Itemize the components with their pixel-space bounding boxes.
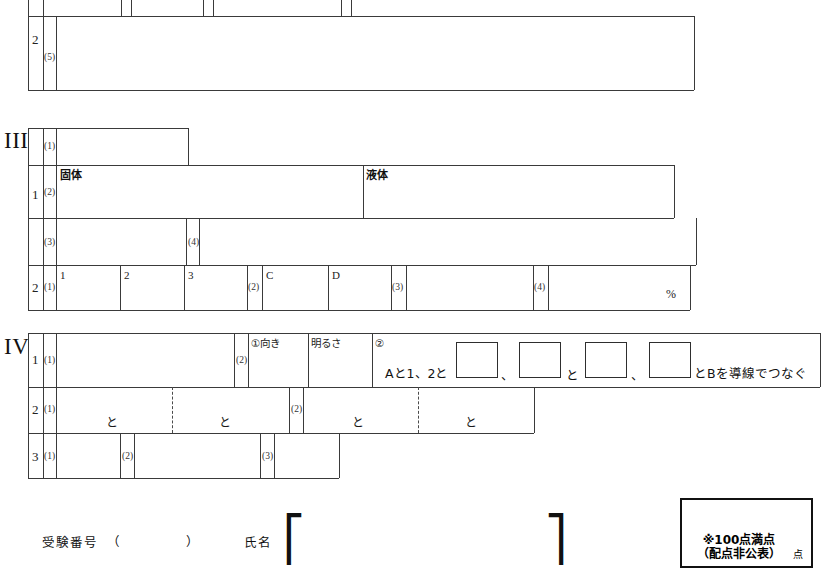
label-sub2-marker: ② (375, 338, 384, 349)
section-4-2-1-number: (1) (44, 405, 55, 415)
answer-field-3-2-1-col1[interactable] (57, 279, 119, 309)
exam-number-label: 受験番号 (42, 537, 98, 550)
section-3-roman: III (4, 129, 28, 152)
section-4-3-3-number: (3) (262, 452, 273, 462)
answer-field-4-3-2[interactable] (135, 434, 259, 477)
name-bracket-close: ⎤ (545, 518, 567, 562)
grid-vline (351, 0, 352, 16)
grid-vline (260, 433, 261, 478)
answer-field-4-3-3[interactable] (275, 434, 338, 477)
grid-hline (28, 478, 339, 479)
section-3-group-2-number: 2 (32, 281, 39, 294)
section-3-outer-rule (28, 128, 29, 310)
section-4-roman: IV (4, 335, 29, 358)
row-1-2-right-rule (674, 165, 675, 218)
answer-field-4-1-1[interactable] (57, 334, 233, 386)
grid-vline (690, 265, 691, 310)
separator-mid: と (566, 370, 579, 383)
label-brightness: 明るさ (311, 338, 341, 349)
section-4-row1-right-rule (820, 333, 821, 387)
grid-vline (121, 0, 122, 16)
blank-box-4[interactable] (649, 342, 691, 378)
section-3-2-4-number: (4) (534, 283, 545, 293)
answer-field-4-2-1-left[interactable] (57, 388, 171, 432)
section-4-1-1-number: (1) (44, 356, 55, 366)
answer-field-3-1-2-liquid[interactable] (365, 180, 672, 216)
exam-number-paren-open: （ (107, 536, 121, 549)
blank-box-3[interactable] (585, 342, 627, 378)
section-4-3-2-number: (2) (122, 452, 133, 462)
section-3-1-4-number: (4) (188, 238, 199, 248)
answer-field-4-2-2-left[interactable] (304, 388, 417, 432)
answer-field-3-2-4[interactable] (549, 266, 664, 309)
answer-field-3-2-2-colC[interactable] (263, 279, 327, 309)
section-3-1-1-number: (1) (44, 142, 55, 152)
grid-vline (289, 387, 290, 433)
section-4-group-2-number: 2 (32, 403, 39, 416)
grid-hline (28, 310, 690, 311)
exam-number-paren-close: ） (186, 536, 200, 549)
answer-field-4-3-1[interactable] (57, 434, 119, 477)
answer-field-3-2-2-colD[interactable] (329, 279, 390, 309)
grid-vline (234, 333, 235, 387)
section-4-1-2-number: (2) (236, 356, 247, 366)
answer-cell-right-rule (694, 16, 695, 90)
section-4-group-3-number: 3 (32, 450, 39, 463)
blank-box-2[interactable] (519, 342, 561, 378)
section-3-2-1-number: (1) (44, 283, 55, 293)
section-4-row2-right-rule (534, 387, 535, 433)
section-4-row3-right-rule (339, 433, 340, 478)
sentence-start: Aと1、2と (385, 368, 448, 381)
score-note-line1: ※100点満点 (684, 533, 794, 547)
group-number-2: 2 (32, 33, 39, 46)
grid-vline (43, 0, 44, 16)
grid-vline (120, 433, 121, 478)
separator-2: 、 (631, 370, 644, 383)
section-4-outer-rule (28, 333, 29, 478)
section-3-1-2-number: (2) (44, 188, 55, 198)
row-1-2-split-rule (363, 165, 364, 218)
answer-field-4-1-2-brightness[interactable] (309, 350, 371, 386)
answer-field-4-2-1-right[interactable] (173, 388, 288, 432)
exam-number-input[interactable] (124, 530, 186, 550)
score-unit-label: 点 (793, 550, 803, 560)
section-3-2-3-number: (3) (392, 283, 403, 293)
row-1-3-right-rule (186, 218, 187, 265)
question-number-5: (5) (44, 53, 55, 63)
answer-field-3-1-2-solid[interactable] (57, 180, 361, 216)
name-input[interactable] (298, 522, 543, 560)
grid-vline (203, 0, 204, 16)
section-4-2-2-number: (2) (291, 405, 302, 415)
grid-vline (28, 0, 29, 16)
name-label: 氏名 (244, 537, 272, 550)
row-1-4-right-rule (696, 218, 697, 265)
grid-hline (28, 165, 674, 166)
grid-vline (131, 0, 132, 16)
answer-field-3-1-3[interactable] (57, 219, 185, 264)
section-3-2-2-number: (2) (248, 283, 259, 293)
grid-hline (28, 90, 694, 91)
section-4-group-1-number: 1 (32, 353, 39, 366)
answer-field-3-2-3[interactable] (407, 266, 532, 309)
answer-field-4-2-2-right[interactable] (419, 388, 533, 432)
label-direction: ①向き (251, 338, 280, 349)
section-4-3-1-number: (1) (44, 452, 55, 462)
grid-vline (213, 0, 214, 16)
answer-field-3-1-4[interactable] (200, 219, 695, 264)
group-col-left-rule (28, 16, 29, 90)
unit-percent: % (666, 288, 676, 300)
separator-1: 、 (501, 370, 514, 383)
blank-box-1[interactable] (456, 342, 498, 378)
grid-vline (372, 333, 373, 387)
section-3-1-3-number: (3) (44, 238, 55, 248)
section-3-group-1-number: 1 (32, 188, 39, 201)
answer-field-3-2-1-col3[interactable] (185, 279, 246, 309)
row-1-1-right-rule (188, 128, 189, 165)
answer-field-3-2-1-col2[interactable] (121, 279, 183, 309)
answer-field-3-1-1[interactable] (57, 129, 187, 164)
answer-field-4-1-2-direction[interactable] (249, 350, 307, 386)
score-note-line2: （配点非公表） (684, 547, 794, 561)
grid-vline (341, 0, 342, 16)
answer-field-2-5[interactable] (57, 17, 693, 89)
sentence-end: とBを導線でつなぐ (694, 368, 807, 381)
